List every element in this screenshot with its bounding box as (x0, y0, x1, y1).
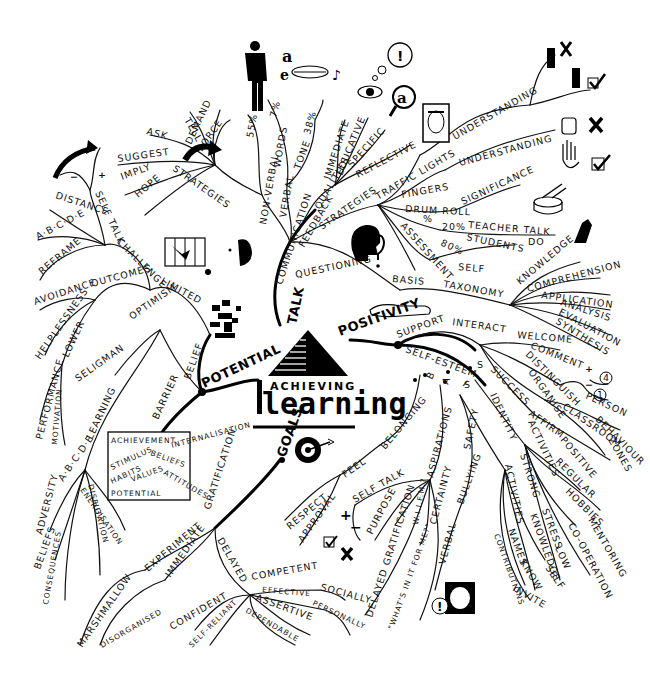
label-38pct: 38% (301, 109, 318, 135)
mind-map: ACHIEVING learning TALK POSITIVITY GOALS… (0, 0, 650, 680)
label-identity: IDENTITY (488, 391, 520, 442)
lips-icon: a e ♪ (280, 47, 341, 83)
svg-text:e: e (280, 67, 289, 83)
label-percent: % (423, 213, 433, 224)
minus-icon: − (585, 379, 594, 390)
label-safety: SAFETY (461, 407, 480, 450)
box-potential: POTENTIAL (111, 489, 161, 498)
label-verbal-bullying: VERBAL (436, 521, 458, 566)
label-delayed: DELAYED (215, 536, 250, 585)
profile-face-icon (229, 239, 253, 266)
label-tone: TONE (291, 138, 312, 171)
label-self-talk-branch: SELF (458, 261, 486, 274)
label-drum-roll: DRUM ROLL (405, 203, 471, 217)
target-icon (295, 437, 334, 463)
label-socially: SOCIALLY (319, 581, 373, 605)
label-four: 4 (603, 372, 610, 383)
label-personally: PERSONALLY (311, 599, 367, 632)
label-20pct: 20% (442, 221, 466, 232)
label-basis: BASIS (392, 273, 426, 287)
face-portrait-icon (423, 104, 449, 142)
svg-text:a: a (397, 89, 407, 107)
label-self-talk-pos: SELF TALK (351, 466, 407, 504)
plus-icon: + (585, 363, 594, 374)
label-s-success: S (477, 359, 484, 370)
label-activities-2: ACTIVITIES (503, 463, 527, 525)
traffic-light-icon (547, 42, 605, 88)
label-s-safety: S (464, 379, 471, 390)
label-cooperation: CO-OPERATION (566, 521, 615, 601)
label-ask: ASK (145, 125, 169, 141)
svg-text:−: − (350, 519, 362, 535)
box-achievement: ACHIEVEMENT (111, 436, 176, 445)
branch-talk: TALK (284, 285, 307, 326)
standing-man-icon (245, 41, 267, 111)
thought-exclamation-icon: ! (373, 43, 413, 81)
label-b-letter: B (424, 369, 437, 380)
label-outcomes: OUTCOMES (90, 262, 153, 289)
svg-text:!: ! (397, 48, 403, 64)
label-significance: SIGNIFICANCE (459, 163, 535, 206)
self-talk-check-cross-icon: + − (324, 507, 362, 560)
svg-text:!: ! (437, 600, 442, 614)
label-understanding-1: UNDERSTANDING (451, 84, 540, 142)
student-doing-icon (574, 219, 592, 243)
label-marshmallow: MARSHMALLOW (75, 571, 134, 649)
label-seligman: SELIGMAN (73, 342, 126, 384)
magnifier-icon: a (390, 86, 415, 116)
label-competent: COMPETENT (250, 559, 319, 582)
label-verbal: VERBAL (277, 174, 295, 219)
label-reframe: REFRAME (36, 235, 83, 277)
center-title-learning: learning (262, 386, 407, 421)
eye-icon (358, 86, 382, 98)
potential-figure-icon (210, 300, 241, 338)
svg-text:♪: ♪ (332, 67, 341, 83)
label-words: WORDS (271, 125, 289, 168)
label-understanding-2: UNDERSTANDING (458, 132, 554, 168)
open-hand-icon (563, 140, 610, 170)
worried-face-icon: ! (432, 582, 475, 614)
label-barrier: BARRIER (150, 372, 181, 421)
label-feel: FEEL (340, 455, 368, 479)
caged-bird-icon (165, 238, 211, 275)
self-talk-plus-icon: + (98, 169, 107, 180)
label-bullying: BULLYING (455, 451, 484, 505)
label-interact: INTERACT (452, 316, 508, 335)
label-optimism: OPTIMISM (127, 281, 178, 322)
label-person: PERSON (584, 390, 629, 419)
svg-text:a: a (282, 47, 292, 66)
self-talk-minus-icon: − (70, 171, 79, 182)
label-wiifm: W.I.I.F.M.? (411, 477, 428, 525)
label-self-esteem: SELF-ESTEEM (404, 344, 478, 380)
fist-hand-icon (562, 118, 602, 134)
label-do: DO (528, 236, 545, 247)
drum-icon (534, 184, 566, 214)
label-a-letter: A (440, 375, 453, 386)
